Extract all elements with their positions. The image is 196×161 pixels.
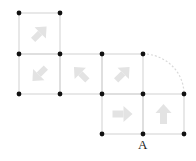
arrow-up-right-icon [110,61,135,86]
grid-diagram [0,0,196,161]
arrow-right-icon [113,106,133,122]
arrow-down-left-icon [27,62,52,87]
arrows [27,21,172,124]
point-label-a: A [138,137,147,153]
arrow-up-icon [156,104,172,124]
arrow-up-right-icon [27,21,52,46]
arrow-up-left-icon [68,61,93,86]
quarter-arc [143,54,184,94]
